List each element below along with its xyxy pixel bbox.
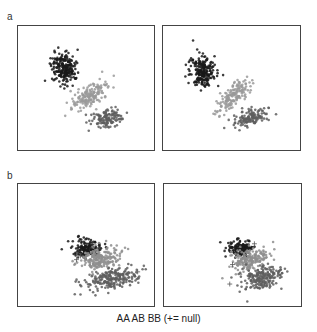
- scatter-panel-b-right: [163, 183, 302, 307]
- cluster-bb: [73, 263, 147, 297]
- legend-text: AA AB BB (+= null): [0, 313, 317, 324]
- scatter-panel-b-left: [17, 183, 155, 307]
- null-marker: [227, 282, 232, 287]
- row-label-b: b: [7, 170, 13, 181]
- scatter-panel-a-right: [162, 25, 301, 151]
- cluster-bb: [230, 262, 288, 302]
- row-label-a: a: [7, 11, 13, 22]
- cluster-aa: [44, 46, 80, 89]
- scatter-panel-a-left: [17, 25, 155, 151]
- cluster-bb: [85, 106, 129, 132]
- cluster-aa: [184, 39, 224, 92]
- cluster-bb: [223, 106, 277, 132]
- null-marker: [230, 262, 235, 267]
- null-marker: [252, 241, 257, 246]
